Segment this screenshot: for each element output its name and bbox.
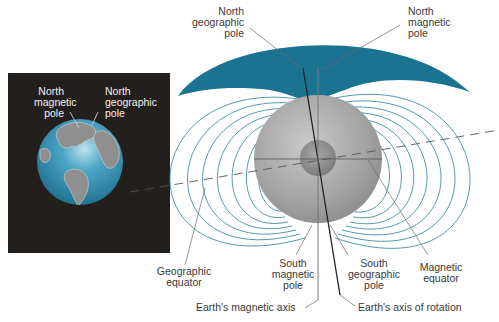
label-axis-of-rotation: Earth's axis of rotation (358, 302, 462, 313)
magnetic-field-diagram: North magnetic pole North geographic pol… (0, 0, 499, 322)
label-geographic-equator: Geographic equator (152, 266, 216, 288)
label-magnetic-equator: Magnetic equator (412, 262, 470, 284)
inset-label-north-geographic-pole: North geographic pole (105, 86, 157, 119)
label-north-magnetic-pole: North magnetic pole (408, 6, 451, 39)
inset-label-north-magnetic-pole: North magnetic pole (34, 86, 64, 119)
field-cap (178, 45, 470, 104)
label-south-magnetic-pole: South magnetic pole (265, 258, 321, 291)
label-magnetic-axis: Earth's magnetic axis (196, 302, 295, 313)
label-south-geographic-pole: South geographic pole (343, 258, 405, 291)
label-north-geographic-pole: North geographic pole (180, 6, 244, 39)
